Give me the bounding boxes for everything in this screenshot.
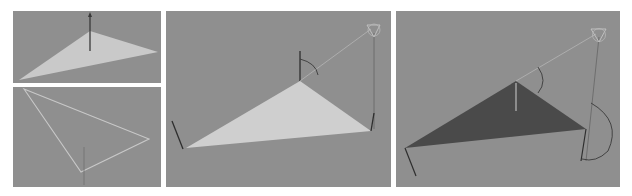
viewport-dark-triangle — [396, 11, 620, 187]
vertex-vector — [581, 129, 586, 161]
shaded-triangle-render — [13, 11, 161, 83]
arrow-head-icon — [88, 12, 92, 17]
viewport-lit-triangle — [166, 11, 391, 187]
vertex-vector — [405, 148, 416, 176]
light-ray — [300, 29, 371, 81]
vertex-vector — [371, 113, 374, 131]
triangle-face — [405, 81, 586, 148]
triangle-outline — [24, 89, 149, 172]
vertex-vector — [172, 121, 183, 149]
viewport-shaded-triangle — [13, 11, 161, 83]
dark-triangle-render — [396, 11, 620, 187]
triangle-face — [186, 81, 371, 148]
lit-triangle-render — [166, 11, 391, 187]
light-ray — [516, 34, 596, 81]
wireframe-triangle-render — [13, 87, 161, 187]
light-vertical — [586, 37, 599, 161]
angle-arc — [538, 67, 543, 93]
triangle-face — [19, 31, 158, 80]
viewport-wireframe-triangle — [13, 87, 161, 187]
angle-arc — [300, 59, 318, 75]
